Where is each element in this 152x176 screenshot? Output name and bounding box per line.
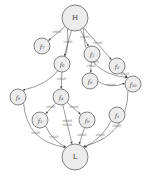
node-f7: f₇ (34, 38, 50, 54)
edge-label: VMAR (106, 83, 116, 87)
nodes-layer: Hf₇f₆f₅f₂f₉f₁₀f₈f₄f₃f₈f₁L (10, 5, 141, 170)
node-f3: f₃ (32, 112, 48, 128)
node-H: H (62, 5, 88, 31)
node-label: f₈ (84, 117, 90, 125)
edge-label: VMAR (52, 30, 62, 34)
edge-label: SMAR (63, 123, 73, 127)
node-f1: f₁ (109, 107, 125, 123)
edge-label: VMAR (95, 133, 105, 137)
node-label: f₈ (15, 94, 21, 102)
node-label: f₉ (87, 78, 93, 86)
edge-label: VMAR (31, 131, 41, 135)
node-label: H (72, 14, 78, 22)
node-label: f₁₀ (128, 81, 137, 89)
node-f5: f₅ (84, 46, 100, 62)
edge-label: VMAR (57, 77, 67, 81)
node-label: f₅ (89, 51, 95, 59)
edge-label: VMAR (46, 105, 56, 109)
node-label: f₃ (37, 117, 43, 125)
node-fg: f₈ (79, 112, 95, 128)
node-label: f₂ (114, 63, 120, 71)
edge-label: VMAR (112, 124, 122, 128)
node-label: f₄ (58, 94, 64, 102)
node-label: f₇ (39, 43, 45, 51)
node-f8: f₈ (10, 89, 26, 105)
node-label: f₆ (59, 61, 65, 69)
edge-label: VMAR (77, 133, 87, 137)
edge-label: VMAR (49, 135, 59, 139)
edge-label: VMAR (86, 64, 96, 68)
node-f9: f₉ (82, 73, 98, 89)
node-L: L (62, 144, 88, 170)
node-label: L (73, 153, 78, 161)
node-f10: f₁₀ (125, 76, 141, 92)
node-f6: f₆ (54, 56, 70, 72)
edge-label: VMAR (80, 35, 90, 39)
node-f4: f₄ (53, 89, 69, 105)
node-f2: f₂ (109, 58, 125, 74)
graph-canvas: VMARVMARVMARVMARVMARVMARVMARVMARVMARVMAR… (0, 0, 152, 176)
edge-label: VMAR (69, 105, 79, 109)
node-label: f₁ (114, 112, 120, 120)
edge-label: VMAR (93, 41, 103, 45)
edge-label: VMAR (63, 40, 73, 44)
